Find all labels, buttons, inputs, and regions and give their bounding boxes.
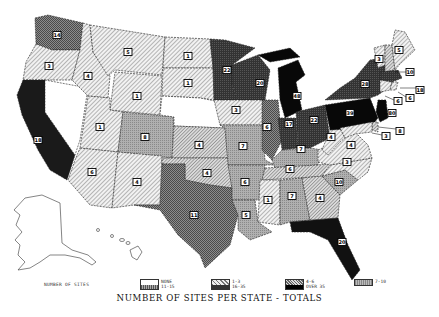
svg-text:7: 7: [241, 143, 245, 149]
svg-text:6: 6: [288, 166, 292, 172]
label-nm: 4: [133, 179, 141, 186]
label-ri: 6: [406, 95, 414, 102]
label-fl: 20: [338, 239, 346, 246]
svg-text:48: 48: [294, 93, 301, 99]
svg-text:1: 1: [98, 124, 102, 130]
label-sc: 10: [335, 179, 343, 186]
state-de: [372, 122, 378, 132]
map-title: NUMBER OF SITES PER STATE - TOTALS: [0, 293, 439, 303]
label-nc: 3: [343, 159, 351, 166]
label-il: 6: [263, 124, 271, 131]
svg-text:11: 11: [191, 212, 198, 218]
svg-text:10: 10: [336, 179, 343, 185]
label-pa: 39: [346, 110, 354, 117]
svg-text:1: 1: [266, 197, 270, 203]
label-tn: 6: [286, 166, 294, 173]
svg-text:7: 7: [299, 146, 303, 152]
svg-text:6: 6: [243, 179, 247, 185]
svg-text:22: 22: [224, 67, 231, 73]
svg-text:5: 5: [126, 49, 130, 55]
svg-text:1: 1: [135, 93, 139, 99]
svg-text:3: 3: [377, 56, 381, 62]
svg-text:3: 3: [234, 107, 238, 113]
legend-item-1-3-16-35: 1-316-35: [211, 279, 246, 290]
svg-text:4: 4: [318, 195, 322, 201]
label-id: 4: [84, 73, 92, 80]
svg-text:6: 6: [90, 169, 94, 175]
svg-text:28: 28: [362, 81, 369, 87]
label-ok: 4: [203, 170, 211, 177]
svg-text:4: 4: [86, 73, 90, 79]
label-sd: 1: [184, 80, 192, 87]
legend-swatch: [354, 279, 373, 286]
state-wi: [232, 55, 270, 100]
svg-text:6: 6: [265, 124, 269, 130]
label-az: 6: [88, 169, 96, 176]
svg-text:20: 20: [339, 239, 346, 245]
label-ga: 4: [316, 195, 324, 202]
label-me: 5: [395, 47, 403, 54]
svg-text:80: 80: [389, 110, 396, 116]
svg-text:22: 22: [311, 117, 318, 123]
legend-item-4-6-over-35: 4-6OVER 35: [285, 279, 325, 290]
svg-text:20: 20: [257, 80, 264, 86]
label-ms: 1: [264, 197, 272, 204]
svg-text:6: 6: [408, 95, 412, 101]
label-la: 5: [242, 212, 250, 219]
svg-text:39: 39: [347, 110, 354, 116]
svg-text:4: 4: [205, 170, 209, 176]
svg-text:18: 18: [417, 87, 424, 93]
label-or: 3: [45, 63, 53, 70]
state-oh: [296, 105, 330, 148]
svg-text:14: 14: [54, 32, 61, 38]
label-de: 8: [396, 128, 404, 135]
state-hi: [97, 229, 143, 261]
label-tx: 11: [190, 212, 198, 219]
label-ca: 18: [34, 137, 42, 144]
state-az: [68, 148, 118, 208]
label-al: 7: [288, 193, 296, 200]
label-wi: 20: [256, 80, 264, 87]
label-nh: 10: [406, 69, 414, 76]
label-ma: 18: [416, 87, 424, 94]
label-mo: 7: [239, 143, 247, 150]
svg-text:6: 6: [396, 98, 400, 104]
state-fl: [290, 218, 360, 280]
svg-text:8: 8: [143, 134, 147, 140]
label-vt: 3: [375, 56, 383, 63]
legend: NUMBER OF SITES NONE11-15 1-316-35 4-6OV…: [44, 279, 424, 291]
svg-text:5: 5: [244, 212, 248, 218]
state-ak: [14, 195, 96, 270]
svg-text:1: 1: [186, 53, 190, 59]
svg-text:8: 8: [398, 128, 402, 134]
label-ar: 6: [241, 179, 249, 186]
label-oh: 22: [310, 117, 318, 124]
svg-text:4: 4: [135, 179, 139, 185]
svg-text:10: 10: [407, 69, 414, 75]
legend-swatch: [285, 279, 304, 290]
svg-text:5: 5: [397, 47, 401, 53]
label-ks: 4: [195, 142, 203, 149]
label-ky: 7: [297, 146, 305, 153]
legend-item-7-10: 7-10: [354, 279, 386, 286]
legend-swatch: [140, 279, 159, 290]
label-ny: 28: [361, 81, 369, 88]
label-mi: 48: [293, 93, 301, 100]
legend-swatch: [211, 279, 230, 290]
label-wv: 4: [327, 134, 335, 141]
svg-text:3: 3: [345, 159, 349, 165]
svg-text:4: 4: [349, 142, 353, 148]
label-in: 17: [285, 121, 293, 128]
svg-text:3: 3: [384, 133, 388, 139]
label-wy: 1: [133, 93, 141, 100]
label-mn: 22: [223, 67, 231, 74]
label-wa: 14: [53, 32, 61, 39]
svg-text:4: 4: [329, 134, 333, 140]
label-ia: 3: [232, 107, 240, 114]
svg-text:4: 4: [197, 142, 201, 148]
svg-text:18: 18: [35, 137, 42, 143]
us-map: 14 3 18 4 5 1 1 8 6 4 1 1 4 4 11 22 20 3…: [0, 0, 439, 317]
label-ut: 1: [96, 124, 104, 131]
label-mt: 5: [124, 49, 132, 56]
label-va: 4: [347, 142, 355, 149]
